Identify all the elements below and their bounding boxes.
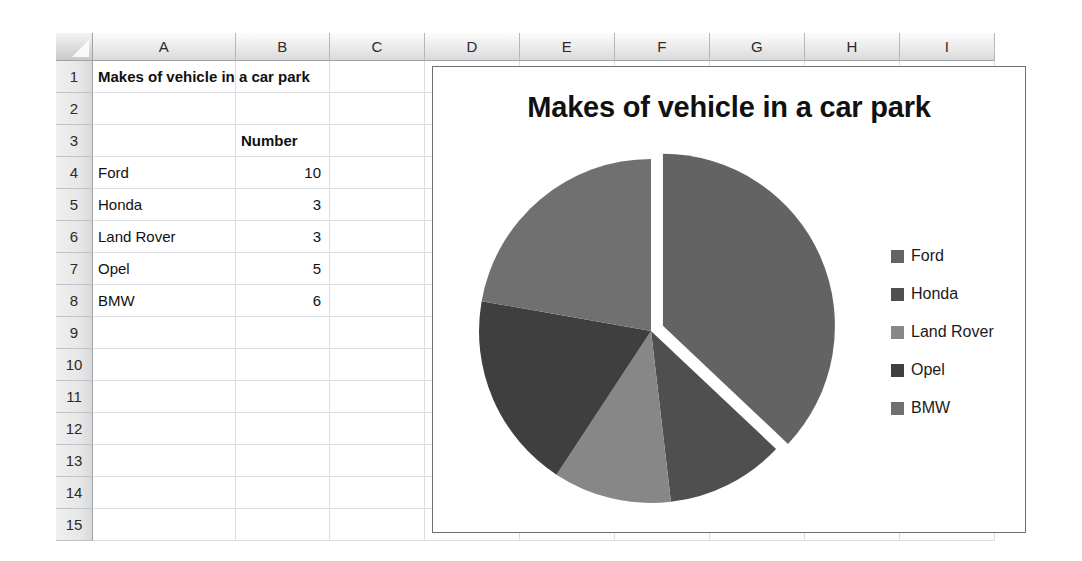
row-header-3[interactable]: 3	[56, 125, 93, 157]
row-header-11[interactable]: 11	[56, 381, 93, 413]
pie-slice-bmw[interactable]	[482, 159, 651, 331]
select-all-corner-button[interactable]	[56, 33, 93, 61]
row-header-13[interactable]: 13	[56, 445, 93, 477]
cell-a14[interactable]	[93, 477, 236, 509]
cell-c1[interactable]	[330, 61, 425, 93]
column-header-e[interactable]: E	[520, 33, 615, 61]
legend-swatch-icon	[891, 364, 904, 377]
column-header-h[interactable]: H	[805, 33, 900, 61]
legend-label: Opel	[911, 361, 945, 379]
cell-b13[interactable]	[236, 445, 330, 477]
row-header-6[interactable]: 6	[56, 221, 93, 253]
column-header-d[interactable]: D	[425, 33, 520, 61]
legend-label: Honda	[911, 285, 958, 303]
cell-a3[interactable]	[93, 125, 236, 157]
column-header-row: ABCDEFGHI	[93, 33, 995, 61]
chart-title: Makes of vehicle in a car park	[433, 91, 1025, 124]
select-all-triangle-icon	[72, 40, 89, 57]
legend-item-honda[interactable]: Honda	[891, 275, 1026, 313]
column-header-g[interactable]: G	[710, 33, 805, 61]
cell-b15[interactable]	[236, 509, 330, 541]
pie-plot-area	[465, 145, 855, 515]
legend-item-land-rover[interactable]: Land Rover	[891, 313, 1026, 351]
row-header-5[interactable]: 5	[56, 189, 93, 221]
legend-item-ford[interactable]: Ford	[891, 237, 1026, 275]
legend-item-bmw[interactable]: BMW	[891, 389, 1026, 427]
row-header-8[interactable]: 8	[56, 285, 93, 317]
cell-b5[interactable]: 3	[236, 189, 330, 221]
cell-a5[interactable]: Honda	[93, 189, 236, 221]
cell-c12[interactable]	[330, 413, 425, 445]
cell-b9[interactable]	[236, 317, 330, 349]
legend-swatch-icon	[891, 250, 904, 263]
cell-c2[interactable]	[330, 93, 425, 125]
pie-chart-object[interactable]: Makes of vehicle in a car park FordHonda…	[432, 66, 1026, 533]
cell-a9[interactable]	[93, 317, 236, 349]
cell-a7[interactable]: Opel	[93, 253, 236, 285]
row-header-column: 123456789101112131415	[56, 61, 93, 541]
legend-label: BMW	[911, 399, 950, 417]
cell-c5[interactable]	[330, 189, 425, 221]
cell-b6[interactable]: 3	[236, 221, 330, 253]
legend-label: Ford	[911, 247, 944, 265]
cell-a15[interactable]	[93, 509, 236, 541]
cell-a4[interactable]: Ford	[93, 157, 236, 189]
cell-b8[interactable]: 6	[236, 285, 330, 317]
cell-a11[interactable]	[93, 381, 236, 413]
cell-b2[interactable]	[236, 93, 330, 125]
cell-a10[interactable]	[93, 349, 236, 381]
row-header-14[interactable]: 14	[56, 477, 93, 509]
pie-svg	[465, 145, 855, 515]
chart-legend: FordHondaLand RoverOpelBMW	[891, 237, 1026, 427]
cell-c15[interactable]	[330, 509, 425, 541]
cell-c14[interactable]	[330, 477, 425, 509]
cell-b14[interactable]	[236, 477, 330, 509]
row-header-2[interactable]: 2	[56, 93, 93, 125]
cell-b7[interactable]: 5	[236, 253, 330, 285]
cell-a1[interactable]: Makes of vehicle in a car park	[93, 61, 236, 93]
cell-b12[interactable]	[236, 413, 330, 445]
legend-swatch-icon	[891, 402, 904, 415]
legend-swatch-icon	[891, 288, 904, 301]
cell-b4[interactable]: 10	[236, 157, 330, 189]
column-header-f[interactable]: F	[615, 33, 710, 61]
row-header-10[interactable]: 10	[56, 349, 93, 381]
cell-b11[interactable]	[236, 381, 330, 413]
legend-swatch-icon	[891, 326, 904, 339]
cell-a12[interactable]	[93, 413, 236, 445]
cell-a13[interactable]	[93, 445, 236, 477]
column-header-c[interactable]: C	[330, 33, 425, 61]
cell-c11[interactable]	[330, 381, 425, 413]
row-header-1[interactable]: 1	[56, 61, 93, 93]
column-header-i[interactable]: I	[900, 33, 995, 61]
legend-label: Land Rover	[911, 323, 994, 341]
cell-b3[interactable]: Number	[236, 125, 330, 157]
row-header-12[interactable]: 12	[56, 413, 93, 445]
column-header-a[interactable]: A	[93, 33, 236, 61]
row-header-4[interactable]: 4	[56, 157, 93, 189]
column-header-b[interactable]: B	[236, 33, 330, 61]
cell-a2[interactable]	[93, 93, 236, 125]
cell-c10[interactable]	[330, 349, 425, 381]
cell-c4[interactable]	[330, 157, 425, 189]
cell-c13[interactable]	[330, 445, 425, 477]
row-header-9[interactable]: 9	[56, 317, 93, 349]
cell-c9[interactable]	[330, 317, 425, 349]
cell-a8[interactable]: BMW	[93, 285, 236, 317]
cell-b10[interactable]	[236, 349, 330, 381]
cell-c7[interactable]	[330, 253, 425, 285]
row-header-15[interactable]: 15	[56, 509, 93, 541]
row-header-7[interactable]: 7	[56, 253, 93, 285]
cell-c6[interactable]	[330, 221, 425, 253]
cell-c8[interactable]	[330, 285, 425, 317]
legend-item-opel[interactable]: Opel	[891, 351, 1026, 389]
cell-a6[interactable]: Land Rover	[93, 221, 236, 253]
cell-c3[interactable]	[330, 125, 425, 157]
